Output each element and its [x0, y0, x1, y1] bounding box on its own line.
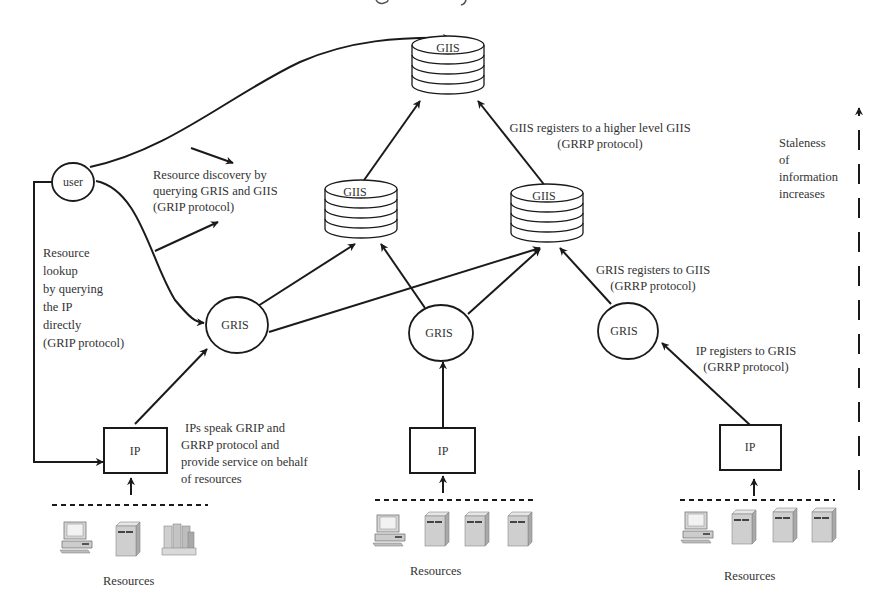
resources-right-group	[681, 508, 836, 544]
giis-register-annotation: GIIS registers to a higher level GIIS (G…	[500, 120, 700, 152]
user-label: user	[63, 175, 83, 189]
annotation-line: (GRRP protocol)	[686, 359, 806, 375]
annotation-line: lookup	[43, 262, 124, 280]
edge-gris-mid-to-giis-left	[381, 244, 425, 308]
server-icon	[773, 508, 797, 542]
annotation-line: querying GRIS and GIIS	[153, 183, 278, 199]
ip-register-annotation: IP registers to GRIS (GRRP protocol)	[686, 343, 806, 375]
edge-gris-left-to-giis-left	[258, 244, 355, 306]
resources-left-label: Resources	[103, 573, 154, 589]
server-icon	[116, 522, 140, 556]
giis-left-node[interactable]: GIIS	[325, 180, 397, 238]
ip-right-label: IP	[745, 440, 756, 454]
edge-gris-left-to-giis-right	[269, 248, 540, 332]
annotation-line: Resource	[43, 244, 124, 262]
workstation-icon	[681, 512, 713, 543]
annotation-line: Resource discovery by	[153, 167, 278, 183]
server-icon	[508, 512, 532, 546]
server-icon	[425, 512, 449, 546]
ip-mid-node[interactable]: IP	[410, 428, 475, 473]
ip-left-label: IP	[130, 444, 141, 458]
lookup-annotation: Resource lookup by querying the IP direc…	[43, 244, 124, 352]
ip-speak-annotation: IPs speak GRIP and GRRP protocol and pro…	[181, 420, 308, 488]
gris-register-annotation: GRIS registers to GIIS (GRRP protocol)	[588, 262, 718, 294]
mds-hierarchy-diagram: GIIS GIIS GIIS user GRIS GRIS GRIS IP IP	[0, 0, 887, 603]
giis-right-label: GIIS	[532, 189, 555, 203]
resources-right-label: Resources	[724, 568, 775, 584]
annotation-line: (GRRP protocol)	[588, 278, 718, 294]
annotation-line: (GRIP protocol)	[153, 199, 278, 215]
ip-mid-label: IP	[438, 444, 449, 458]
truncated-title-fragment	[376, 0, 466, 5]
annotation-line: GIIS registers to a higher level GIIS	[500, 120, 700, 136]
annotation-line: GRIS registers to GIIS	[588, 262, 718, 278]
gris-left-label: GRIS	[221, 318, 248, 332]
annotation-line: the IP	[43, 298, 124, 316]
ip-left-node[interactable]: IP	[104, 428, 167, 473]
annotation-line: IP registers to GRIS	[686, 343, 806, 359]
discovery-arrow-bottom	[155, 222, 218, 251]
annotation-line: (GRRP protocol)	[500, 136, 700, 152]
annotation-line: of	[779, 152, 838, 169]
annotation-line: (GRIP protocol)	[43, 334, 124, 352]
storage-array-icon	[162, 524, 196, 555]
discovery-annotation: Resource discovery by querying GRIS and …	[153, 167, 278, 215]
resource-baselines	[52, 500, 835, 505]
annotation-line: IPs speak GRIP and	[181, 420, 308, 437]
gris-mid-node[interactable]: GRIS	[409, 305, 473, 361]
annotation-line: GRRP protocol and	[181, 437, 308, 454]
edge-giis-left-to-giis-top	[362, 101, 420, 183]
discovery-arrow-top	[191, 148, 233, 163]
workstation-icon	[60, 522, 92, 553]
annotation-line: information	[779, 169, 838, 186]
gris-mid-label: GRIS	[425, 326, 452, 340]
giis-top-node[interactable]: GIIS	[412, 36, 484, 94]
annotation-line: directly	[43, 316, 124, 334]
annotation-line: of resources	[181, 471, 308, 488]
resources-mid-label: Resources	[410, 563, 461, 579]
resources-left-group	[60, 522, 196, 556]
server-icon	[732, 510, 756, 544]
ip-right-node[interactable]: IP	[720, 425, 781, 470]
gris-left-node[interactable]: GRIS	[206, 297, 268, 353]
user-node[interactable]: user	[52, 163, 94, 201]
annotation-line: Staleness	[779, 135, 838, 152]
edge-user-to-giis-top	[90, 38, 450, 167]
server-icon	[465, 512, 489, 546]
giis-top-label: GIIS	[436, 41, 459, 55]
staleness-annotation: Staleness of information increases	[779, 135, 838, 203]
annotation-line: by querying	[43, 280, 124, 298]
giis-right-node[interactable]: GIIS	[511, 184, 583, 242]
annotation-line: increases	[779, 186, 838, 203]
server-icon	[812, 508, 836, 542]
giis-left-label: GIIS	[343, 185, 366, 199]
gris-right-label: GRIS	[610, 324, 637, 338]
annotation-line: provide service on behalf	[181, 454, 308, 471]
resources-mid-group	[373, 512, 532, 546]
edge-ip-left-to-gris-left	[135, 349, 207, 424]
workstation-icon	[373, 515, 405, 546]
gris-right-node[interactable]: GRIS	[598, 303, 658, 359]
